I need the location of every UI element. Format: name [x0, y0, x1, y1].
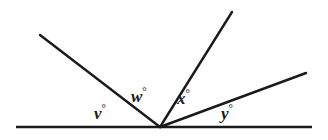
angle-label-x: x°	[177, 88, 190, 107]
angle-label-y: y°	[221, 103, 233, 122]
angle-variable-v: v	[94, 104, 102, 123]
geometry-diagram: v° w° x° y°	[0, 0, 328, 140]
degree-symbol-x: °	[186, 87, 190, 99]
diagram-canvas	[0, 0, 328, 140]
angle-label-v: v°	[94, 103, 106, 122]
angle-variable-y: y	[221, 104, 229, 123]
degree-symbol-y: °	[229, 102, 233, 114]
degree-symbol-v: °	[102, 102, 106, 114]
degree-symbol-w: °	[142, 85, 146, 97]
angle-label-w: w°	[131, 86, 147, 105]
angle-variable-x: x	[177, 89, 186, 108]
angle-variable-w: w	[131, 87, 142, 106]
